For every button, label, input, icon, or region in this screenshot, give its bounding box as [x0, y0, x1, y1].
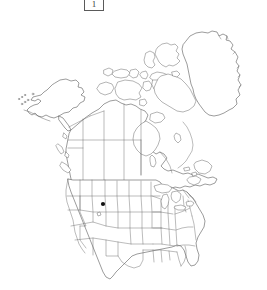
bc-coastal-islet	[63, 133, 67, 139]
map-canvas	[0, 0, 267, 290]
cornwallis-island	[140, 71, 148, 79]
victoria-island	[115, 80, 142, 100]
axel-heiberg-island	[144, 51, 155, 68]
aleutian-island-dot	[21, 103, 23, 105]
prince-patrick-island	[104, 68, 113, 76]
aleutian-island-dot	[21, 96, 22, 97]
melville-island	[112, 69, 130, 78]
southampton-island	[150, 112, 165, 123]
alaska-panhandle	[59, 116, 71, 131]
ellesmere-island	[155, 43, 180, 67]
ungava-bay	[174, 133, 181, 143]
prince-of-wales-island	[143, 81, 152, 91]
prince-edward-island	[192, 172, 197, 176]
baffin-island	[154, 74, 196, 112]
labrador-coast	[178, 122, 193, 168]
occurrence-dot-idaho	[101, 202, 105, 206]
bathurst-island	[129, 69, 139, 78]
bylot-island	[172, 71, 180, 77]
north-america-map-svg	[0, 0, 267, 290]
aleutian-island-dot	[27, 99, 29, 101]
occurrence-markers-layer	[101, 202, 105, 206]
newfoundland-island	[194, 160, 212, 174]
banks-island	[97, 82, 114, 95]
alaska-mainland	[27, 79, 85, 118]
aleutian-island-dot	[24, 101, 26, 103]
figure-root: 1	[0, 0, 267, 290]
aleutian-island-dot	[18, 98, 19, 99]
haida-gwaii	[56, 144, 64, 154]
great-salt-lake	[97, 212, 101, 216]
kodiak-island	[32, 93, 34, 95]
aleutian-island-dot	[24, 94, 25, 95]
anticosti-island	[184, 167, 190, 171]
contiguous-us-outline	[68, 179, 205, 279]
king-william-island	[140, 99, 147, 106]
gulf-state-boundaries	[143, 250, 181, 266]
